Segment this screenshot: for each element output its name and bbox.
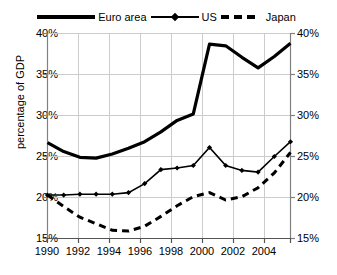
x-axis <box>47 239 291 244</box>
us-data-point <box>175 165 180 170</box>
us-data-point <box>239 168 244 173</box>
series-japan <box>48 152 291 231</box>
chart-container: Euro area US Japan percentage of GDP 40%… <box>0 0 337 275</box>
chart-plot-area <box>0 0 337 275</box>
us-data-point <box>94 192 99 197</box>
y-axis-right <box>291 33 296 239</box>
us-data-point <box>110 192 115 197</box>
grid-horizontal <box>47 34 291 198</box>
grid-vertical <box>79 33 265 239</box>
y-axis-left <box>43 33 48 239</box>
us-data-point <box>61 192 66 197</box>
series-euro-area <box>48 43 291 158</box>
